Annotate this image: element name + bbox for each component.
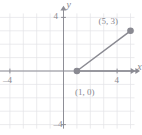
x-tick-label-4: 4 (115, 76, 120, 85)
x-axis-label: x (137, 62, 141, 72)
y-axis-label: y (67, 0, 71, 10)
point-label-5-3: (5, 3) (99, 17, 119, 26)
x-tick-label-neg4: –4 (3, 76, 12, 85)
y-tick-label-4: 4 (54, 12, 59, 21)
point-label-1-0: (1, 0) (75, 88, 95, 97)
coordinate-plane-svg (0, 0, 142, 135)
y-tick-label-neg4: –4 (54, 120, 63, 129)
graph-figure: x y –4 4 4 –4 (1, 0) (5, 3) (0, 0, 142, 135)
